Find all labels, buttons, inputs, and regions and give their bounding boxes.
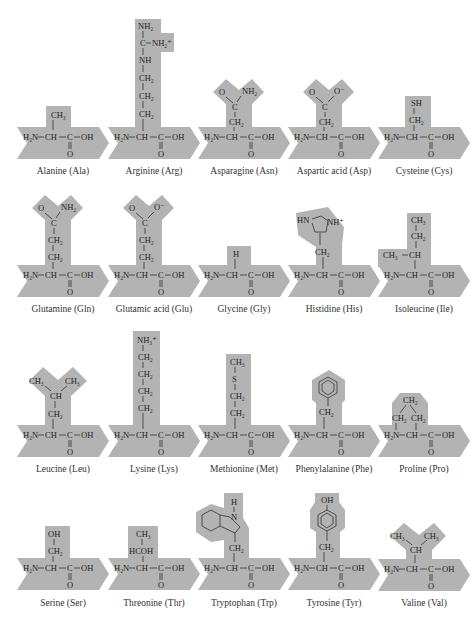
- svg-text:CH₂: CH₂: [138, 403, 153, 413]
- svg-text:C: C: [338, 270, 344, 280]
- aspartic-acid-structure: O O⁻ C CH₂ H₂N CH C OH O: [288, 72, 380, 180]
- svg-text:CH₃: CH₃: [51, 110, 66, 120]
- svg-text:OH: OH: [442, 132, 454, 142]
- svg-text:O: O: [338, 580, 344, 590]
- svg-text:O: O: [428, 447, 434, 457]
- svg-text:O: O: [38, 203, 44, 213]
- svg-text:OH: OH: [321, 495, 333, 505]
- svg-text:OH: OH: [172, 132, 184, 142]
- amino-acid-label: Lysine (Lys): [104, 464, 204, 474]
- svg-text:CH₂: CH₂: [319, 542, 334, 552]
- svg-text:CH: CH: [406, 564, 418, 574]
- amino-acid-label: Valine (Val): [374, 598, 474, 608]
- svg-text:CH₃: CH₃: [424, 531, 439, 541]
- svg-text:C: C: [158, 132, 164, 142]
- svg-text:CH₂: CH₂: [229, 543, 244, 553]
- svg-text:O: O: [158, 149, 164, 159]
- svg-text:CH: CH: [136, 563, 148, 573]
- svg-text:CH₂: CH₂: [139, 91, 154, 101]
- svg-text:C: C: [428, 270, 434, 280]
- svg-text:NH⁺: NH⁺: [327, 217, 344, 227]
- svg-text:CH₃: CH₃: [230, 357, 245, 367]
- svg-text:OH: OH: [262, 270, 274, 280]
- svg-text:CH: CH: [316, 430, 328, 440]
- svg-text:H₂N: H₂N: [294, 132, 309, 142]
- svg-text:H₂N: H₂N: [204, 132, 219, 142]
- svg-text:CH₂: CH₂: [411, 413, 426, 423]
- svg-text:C: C: [142, 218, 148, 228]
- svg-text:CH₂: CH₂: [230, 408, 245, 418]
- amino-acid-label: Serine (Ser): [13, 598, 113, 608]
- svg-text:CH₂: CH₂: [48, 252, 63, 262]
- svg-text:CH₂: CH₂: [230, 391, 245, 401]
- svg-text:C: C: [248, 563, 254, 573]
- svg-text:H₂N: H₂N: [204, 563, 219, 573]
- amino-acid-glutamine: O NH₂ C CH₂ CH₂ H₂N CH C OH O Glutamine …: [17, 188, 109, 318]
- svg-text:CH: CH: [45, 430, 57, 440]
- svg-text:CH: CH: [136, 270, 148, 280]
- svg-text:H₂N: H₂N: [384, 430, 399, 440]
- svg-text:C: C: [51, 218, 57, 228]
- svg-text:O: O: [338, 287, 344, 297]
- amino-acid-tyrosine: OH CH₂ H₂N CH C OH O Tyrosine (Tyr): [288, 490, 380, 622]
- svg-text:H₂N: H₂N: [114, 563, 129, 573]
- svg-text:N: N: [231, 512, 237, 522]
- amino-acid-proline: CH₂ CH₂ CH₂ H₂N CH C OH O Proline (Pro): [378, 390, 470, 478]
- svg-text:CH₃: CH₃: [411, 215, 426, 225]
- amino-acid-valine: CH₃ CH₃ CH H₂N CH C OH O Valine (Val): [378, 520, 470, 622]
- svg-text:CH: CH: [50, 391, 62, 401]
- svg-text:C: C: [248, 132, 254, 142]
- svg-text:CH: CH: [226, 270, 238, 280]
- amino-acid-label: Aspartic acid (Asp): [284, 166, 384, 176]
- svg-text:OH: OH: [262, 430, 274, 440]
- amino-acid-label: Glutamic acid (Glu): [104, 304, 204, 314]
- svg-text:CH: CH: [136, 132, 148, 142]
- svg-text:C: C: [428, 132, 434, 142]
- leucine-structure: CH₃ CH₃ CH CH₂ H₂N CH C OH O: [17, 360, 109, 478]
- svg-text:CH: CH: [316, 270, 328, 280]
- isoleucine-structure: CH₃ CH₂ CH₃ CH H₂N CH C OH O: [378, 210, 470, 318]
- svg-text:CH: CH: [226, 132, 238, 142]
- svg-text:O: O: [338, 447, 344, 457]
- svg-text:CH₃: CH₃: [136, 529, 151, 539]
- svg-text:CH₂: CH₂: [139, 252, 154, 262]
- svg-text:C: C: [428, 430, 434, 440]
- svg-text:H₂N: H₂N: [294, 430, 309, 440]
- svg-text:C: C: [67, 563, 73, 573]
- amino-acid-label: Asparagine (Asn): [194, 166, 294, 176]
- svg-text:CH₂: CH₂: [411, 231, 426, 241]
- svg-text:NH₂: NH₂: [242, 86, 257, 96]
- svg-text:CH: CH: [406, 132, 418, 142]
- glutamic-acid-structure: O O⁻ C CH₂ CH₂ H₂N CH C OH O: [108, 188, 200, 318]
- svg-text:CH: CH: [316, 563, 328, 573]
- amino-acid-label: Phenylalanine (Phe): [284, 464, 384, 474]
- svg-text:O: O: [67, 447, 73, 457]
- svg-text:CH: CH: [406, 270, 418, 280]
- svg-text:H₂N: H₂N: [294, 563, 309, 573]
- amino-acid-label: Histidine (His): [284, 304, 384, 314]
- svg-text:CH: CH: [45, 132, 57, 142]
- svg-text:CH: CH: [226, 563, 238, 573]
- svg-text:OH: OH: [442, 430, 454, 440]
- svg-text:OH: OH: [262, 132, 274, 142]
- svg-text:C: C: [338, 132, 344, 142]
- asparagine-structure: O NH₂ C CH₂ H₂N CH C OH O: [198, 72, 290, 180]
- svg-text:CH₃: CH₃: [390, 531, 405, 541]
- svg-text:OH: OH: [442, 270, 454, 280]
- svg-text:OH: OH: [352, 563, 364, 573]
- svg-text:H₂N: H₂N: [204, 270, 219, 280]
- svg-text:C: C: [67, 270, 73, 280]
- svg-text:H₂N: H₂N: [384, 270, 399, 280]
- svg-text:CH₂: CH₂: [139, 109, 154, 119]
- svg-text:CH: CH: [226, 430, 238, 440]
- svg-text:H₂N: H₂N: [23, 430, 38, 440]
- amino-acid-glycine: H H₂N CH C OH O Glycine (Gly): [198, 240, 290, 318]
- amino-acid-cysteine: SH CH₂ H₂N CH C OH O Cysteine (Cys): [378, 90, 470, 180]
- svg-text:O: O: [67, 580, 73, 590]
- svg-text:C: C: [248, 430, 254, 440]
- svg-text:CH₂: CH₂: [138, 369, 153, 379]
- svg-text:CH: CH: [409, 250, 421, 260]
- svg-text:OH: OH: [81, 430, 93, 440]
- svg-text:H: H: [233, 249, 239, 259]
- amino-acid-arginine: NH₂ C NH₂⁺ NH CH₂ CH₂ CH₂ H₂N CH C OH O …: [108, 18, 200, 180]
